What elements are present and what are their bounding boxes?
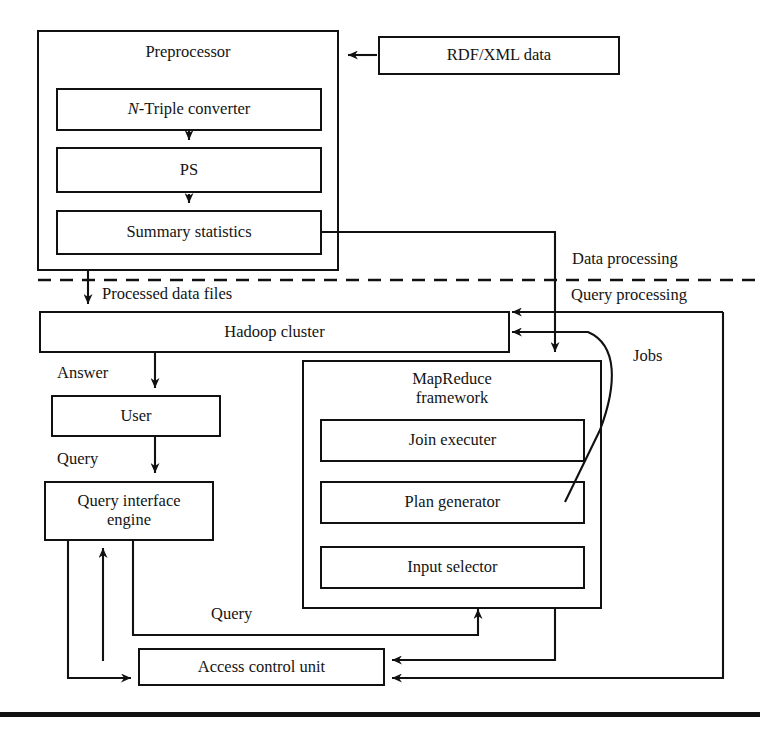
ntriple-converter-label: N-Triple converter bbox=[128, 100, 251, 119]
query-user-label: Query bbox=[57, 450, 98, 468]
processed-data-files-label: Processed data files bbox=[102, 285, 232, 303]
edge-query-interface-to-access-control bbox=[68, 541, 131, 678]
query-interface-engine-line2: engine bbox=[107, 511, 151, 530]
hadoop-cluster-box: Hadoop cluster bbox=[39, 311, 510, 353]
data-processing-label: Data processing bbox=[572, 250, 678, 268]
preprocessor-title: Preprocessor bbox=[37, 42, 339, 61]
ntriple-italic-prefix: N bbox=[128, 99, 139, 118]
access-control-unit-box: Access control unit bbox=[138, 648, 385, 686]
ntriple-rest-label: -Triple converter bbox=[139, 99, 251, 118]
ntriple-converter-box: N-Triple converter bbox=[56, 88, 322, 131]
join-executer-box: Join executer bbox=[320, 419, 585, 462]
plan-generator-box: Plan generator bbox=[320, 481, 585, 524]
page-bottom-rule bbox=[0, 712, 760, 717]
rdf-xml-data-box: RDF/XML data bbox=[378, 36, 620, 75]
query-interface-engine-line1: Query interface bbox=[77, 492, 180, 511]
user-box: User bbox=[51, 395, 221, 437]
mapreduce-title-line1: MapReduce bbox=[412, 369, 492, 388]
query-processing-label: Query processing bbox=[571, 286, 687, 304]
query-access-label: Query bbox=[211, 605, 252, 623]
mapreduce-framework-title: MapReduceframework bbox=[302, 369, 602, 408]
answer-label: Answer bbox=[57, 364, 108, 382]
architecture-diagram: Preprocessor N-Triple converter PS Summa… bbox=[0, 0, 760, 733]
query-interface-engine-box: Query interface engine bbox=[44, 481, 214, 541]
mapreduce-title-line2: framework bbox=[416, 388, 488, 407]
jobs-label: Jobs bbox=[633, 347, 662, 365]
summary-statistics-box: Summary statistics bbox=[56, 210, 322, 255]
input-selector-box: Input selector bbox=[320, 546, 585, 589]
ps-box: PS bbox=[56, 147, 322, 193]
